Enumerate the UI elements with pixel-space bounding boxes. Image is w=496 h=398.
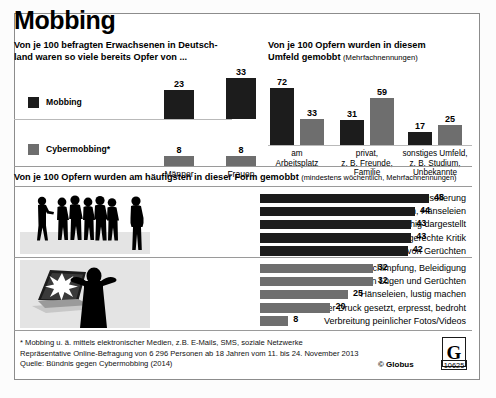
bar-value: 48 [434, 192, 444, 202]
lead-line-2: Umfeld gemobbt [268, 52, 340, 62]
bar [260, 220, 411, 230]
mobbing-form-row: massive, ungerechte Kritik43 [14, 232, 472, 245]
legend-label: Mobbing [46, 97, 82, 107]
baseline-rule [14, 119, 232, 120]
prevalence-chart: MobbingCybermobbing*233388MännerFrauen [14, 73, 232, 169]
bar [164, 156, 194, 166]
baseline-axis [268, 145, 472, 146]
bar-value: 31 [340, 109, 364, 119]
footnotes: * Mobbing u. ä. mittels elektronischer M… [20, 338, 400, 370]
footnote-line-3: Quelle: Bündnis gegen Cybermobbing (2014… [20, 359, 400, 370]
lead-note: (mindestens wöchentlich, Mehrfachnennung… [301, 173, 456, 182]
bar-value: 8 [164, 145, 194, 155]
bar-track [260, 303, 330, 313]
group-label-line: am [291, 149, 302, 158]
bar [226, 156, 256, 166]
legend-label: Cybermobbing* [46, 144, 110, 154]
bar [300, 119, 324, 145]
bar-value: 32 [378, 275, 388, 285]
lead-line-1: Von je 100 Opfern wurden in diesem [268, 40, 426, 50]
bar [260, 207, 415, 217]
cyber-form-row: Verbreitung peinlicher Fotos/Videos8 [14, 315, 472, 328]
divider-footer [14, 330, 472, 331]
bar [260, 303, 330, 313]
section-environment: Von je 100 Opfern wurden in diesem Umfel… [268, 40, 472, 174]
footnote-line-1: * Mobbing u. ä. mittels elektronischer M… [20, 338, 400, 349]
bar-track [260, 220, 411, 230]
bar-value: 43 [416, 231, 426, 241]
divider-cyber [14, 257, 472, 258]
bar-value: 23 [164, 79, 194, 89]
bar-value: 43 [416, 218, 426, 228]
bar [260, 246, 408, 256]
bar-track [260, 207, 415, 217]
cyber-form-row: Hänseleien, lustig machen25 [14, 288, 472, 301]
bar-track [260, 316, 288, 326]
bar-value: 8 [293, 314, 298, 324]
infographic-canvas: Mobbing Von je 100 befragten Erwachsenen… [0, 0, 496, 398]
bar [270, 88, 294, 146]
bar-value: 20 [335, 301, 345, 311]
bar-value: 25 [438, 114, 462, 124]
globus-number: 10625 [441, 360, 467, 370]
copyright-label: © Globus [378, 360, 414, 369]
divider-top [14, 166, 472, 167]
lead-note: (Mehrfachnennungen) [343, 53, 418, 62]
bar-track [260, 290, 348, 300]
bar [164, 90, 194, 119]
cyber-form-row: unter Druck gesetzt, erpresst, bedroht20 [14, 302, 472, 315]
section-prevalence-lead: Von je 100 befragten Erwachsenen in Deut… [14, 40, 232, 63]
globus-logo-letter: G [447, 344, 462, 361]
bar [260, 194, 429, 204]
section-prevalence: Von je 100 befragten Erwachsenen in Deut… [14, 40, 232, 169]
bar-value: 59 [370, 87, 394, 97]
section-environment-lead: Von je 100 Opfern wurden in diesem Umfel… [268, 40, 472, 63]
lead-text: Von je 100 Opfern wurden am häufigsten i… [14, 172, 299, 182]
bar [408, 132, 432, 146]
bar [260, 277, 373, 287]
bar [260, 316, 288, 326]
mobbing-form-row: Ausgrenzung, Isolierung48 [14, 192, 472, 205]
group-label-line: sonstiges Umfeld, [402, 149, 467, 158]
bar [370, 98, 394, 145]
bar-track [260, 264, 373, 274]
bar [438, 125, 462, 145]
bar [226, 78, 256, 119]
footnote-line-2: Repräsentative Online-Befragung von 6 29… [20, 349, 400, 360]
bar-value: 42 [413, 244, 423, 254]
section-forms-lead: Von je 100 Opfern wurden am häufigsten i… [14, 172, 472, 182]
mobbing-form-row: Verbreitung von Gerüchten42 [14, 245, 472, 258]
bar-value: 8 [226, 145, 256, 155]
page-title: Mobbing [14, 8, 115, 33]
bar-track [260, 277, 373, 287]
group-label-line: privat, [356, 149, 378, 158]
bar-track [260, 246, 408, 256]
bar-value: 44 [420, 205, 430, 215]
bar [260, 233, 411, 243]
bar-value: 17 [408, 121, 432, 131]
forms-mobbing-list: Ausgrenzung, Isolierung48Sticheleien, Hä… [14, 192, 472, 258]
bar [260, 264, 373, 274]
cyber-form-row: Beschimpfung, Beleidigung32 [14, 262, 472, 275]
bar [260, 290, 348, 300]
forms-cyber-list: Beschimpfung, Beleidigung32Verbreitung v… [14, 262, 472, 328]
bar-value: 72 [270, 77, 294, 87]
cyber-form-row: Verbreitung von Lügen und Gerüchten32 [14, 275, 472, 288]
legend-swatch-mobbing [28, 97, 39, 108]
bar-track [260, 194, 429, 204]
bar-value: 32 [378, 262, 388, 272]
lead-line-2: land waren so viele bereits Opfer von ..… [14, 52, 187, 62]
lead-line-1: Von je 100 befragten Erwachsenen in Deut… [14, 40, 218, 50]
divider-forms [14, 186, 472, 187]
environment-chart: 7233amArbeitsplatz3159privat,z. B. Freun… [268, 69, 472, 174]
bar-value: 33 [300, 108, 324, 118]
bar-value: 25 [353, 288, 363, 298]
bar-track [260, 233, 411, 243]
bar [340, 120, 364, 145]
mobbing-form-row: Sticheleien, Hänseleien44 [14, 205, 472, 218]
mobbing-form-row: als unfähig dargestellt43 [14, 218, 472, 231]
legend-swatch-cybermobbing [28, 144, 39, 155]
bar-value: 33 [226, 67, 256, 77]
